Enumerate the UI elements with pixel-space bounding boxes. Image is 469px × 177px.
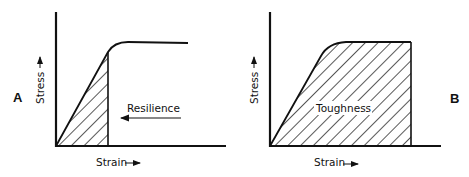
panel-a: Resilience Stress Strain A xyxy=(13,12,226,168)
y-axis-label-a: Stress xyxy=(34,72,46,104)
x-axis-label-b: Strain xyxy=(314,156,345,168)
toughness-area xyxy=(270,42,411,146)
panel-b: Toughness Stress Strain B xyxy=(248,12,459,168)
resilience-label: Resilience xyxy=(127,102,180,114)
stress-strain-diagrams: Resilience Stress Strain A Toughness Str… xyxy=(0,0,469,177)
panel-letter-a: A xyxy=(13,90,23,105)
panel-letter-b: B xyxy=(450,91,459,106)
x-axis-label-a: Strain xyxy=(96,156,127,168)
y-axis-label-b: Stress xyxy=(248,72,260,104)
toughness-label: Toughness xyxy=(315,102,371,114)
